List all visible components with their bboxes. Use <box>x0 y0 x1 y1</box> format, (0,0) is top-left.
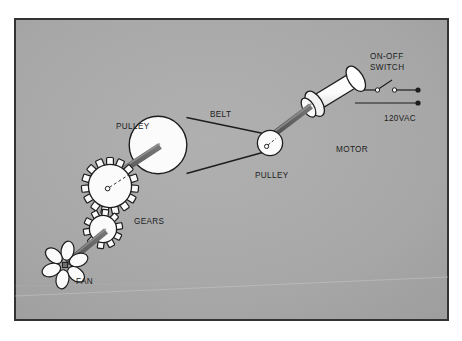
label-pulley-small: PULLEY <box>255 171 289 180</box>
pulley-small <box>257 130 282 155</box>
fan-hub <box>62 262 67 267</box>
switch-pivot-terminal[interactable] <box>375 88 379 92</box>
pulley-small-hub <box>265 144 269 148</box>
label-gears: GEARS <box>134 217 165 226</box>
label-switch-line2: SWITCH <box>370 63 404 72</box>
label-switch-line1: ON-OFF <box>370 52 403 61</box>
label-fan: FAN <box>76 277 93 286</box>
label-pulley-large: PULLEY <box>116 122 150 131</box>
switch-contact-terminal[interactable] <box>392 88 396 92</box>
label-motor: MOTOR <box>336 145 368 154</box>
label-supply: 120VAC <box>384 114 416 123</box>
label-belt: BELT <box>210 110 231 119</box>
diagram-canvas: ON-OFF SWITCH 120VAC MOTOR PULLEY BELT P… <box>0 0 462 341</box>
supply-terminal-neutral <box>415 100 420 105</box>
supply-terminal-line <box>415 87 420 92</box>
